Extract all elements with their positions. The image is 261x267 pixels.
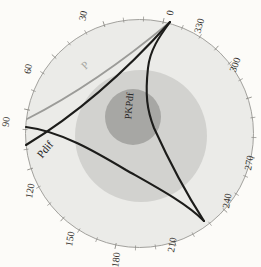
angle-label-210: 210 <box>165 236 178 253</box>
angle-label-150: 150 <box>63 230 76 247</box>
angle-label-180: 180 <box>109 252 122 267</box>
scanned-polar-ray-figure: 0330300270240210180150120906030PPdifPKPd… <box>0 0 261 267</box>
angle-label-60: 60 <box>22 63 35 75</box>
angle-label-330: 330 <box>191 17 206 34</box>
angle-label-300: 300 <box>227 56 242 74</box>
angle-label-90: 90 <box>0 116 12 127</box>
angle-label-120: 120 <box>23 182 36 199</box>
angle-label-0: 0 <box>164 9 176 16</box>
angle-label-270: 270 <box>242 154 255 171</box>
angle-label-30: 30 <box>76 10 89 22</box>
angle-label-240: 240 <box>220 192 233 209</box>
polar-figure: 0330300270240210180150120906030PPdifPKPd… <box>0 0 261 267</box>
